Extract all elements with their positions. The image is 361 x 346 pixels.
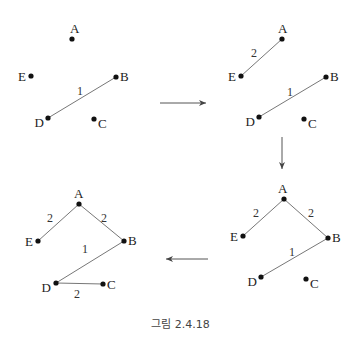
node-E xyxy=(28,73,33,78)
node-label: B xyxy=(128,233,137,248)
edge-EA xyxy=(38,204,79,241)
node-A xyxy=(76,201,81,206)
edge-EA xyxy=(241,39,282,76)
edge-weight: 2 xyxy=(101,211,107,225)
node-D xyxy=(258,274,263,279)
node-label: D xyxy=(35,115,44,130)
edge-weight: 2 xyxy=(47,211,53,225)
node-B xyxy=(113,74,118,79)
edge-weight: 2 xyxy=(253,206,259,220)
node-E xyxy=(35,238,40,243)
edge-EA xyxy=(243,199,284,236)
graph-panel-step4: 2212AEBDC xyxy=(25,186,137,301)
node-label: A xyxy=(74,186,84,201)
node-label: C xyxy=(107,277,116,292)
edge-weight: 2 xyxy=(74,287,80,301)
node-label: D xyxy=(248,274,257,289)
node-label: D xyxy=(42,280,51,295)
node-label: A xyxy=(278,181,288,196)
node-label: D xyxy=(246,114,255,129)
edge-weight: 2 xyxy=(251,46,257,60)
graph-panel-step3: 221AEBDC xyxy=(230,181,341,291)
node-A xyxy=(279,36,284,41)
node-B xyxy=(121,238,126,243)
node-E xyxy=(240,233,245,238)
node-label: B xyxy=(330,69,339,84)
edge-AB xyxy=(284,199,328,238)
node-label: E xyxy=(230,229,238,244)
figure-caption: 그림 2.4.18 xyxy=(0,315,361,331)
graph-panel-step1: 1AEBDC xyxy=(18,21,129,131)
node-D xyxy=(45,115,50,120)
node-label: B xyxy=(120,69,129,84)
node-label: E xyxy=(25,234,33,249)
node-C xyxy=(303,276,308,281)
node-label: C xyxy=(98,116,107,131)
node-B xyxy=(323,74,328,79)
node-E xyxy=(238,73,243,78)
edge-weight: 1 xyxy=(289,245,295,259)
node-label: C xyxy=(308,116,317,131)
node-B xyxy=(325,235,330,240)
node-label: C xyxy=(310,276,319,291)
node-D xyxy=(256,114,261,119)
step-arrows xyxy=(160,103,282,259)
node-label: E xyxy=(228,69,236,84)
node-label: A xyxy=(70,21,80,36)
node-C xyxy=(301,116,306,121)
node-C xyxy=(100,281,105,286)
edge-weight: 1 xyxy=(287,85,293,99)
mst-construction-diagram: 1AEBDC21AEBDC221AEBDC2212AEBDC xyxy=(0,0,361,346)
edge-DC xyxy=(56,283,103,284)
node-label: E xyxy=(18,69,26,84)
node-C xyxy=(91,116,96,121)
node-D xyxy=(53,280,58,285)
node-label: A xyxy=(278,21,288,36)
edge-weight: 1 xyxy=(82,242,88,256)
node-A xyxy=(281,196,286,201)
graph-panel-step2: 21AEBDC xyxy=(228,21,339,131)
edge-weight: 1 xyxy=(77,84,83,98)
node-A xyxy=(69,36,74,41)
node-label: B xyxy=(332,230,341,245)
edge-weight: 2 xyxy=(308,206,314,220)
